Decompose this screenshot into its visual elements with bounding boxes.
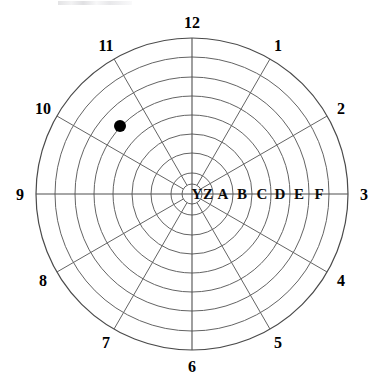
- inner-tick-10: [174, 184, 184, 190]
- polar-chart-stage: YZABCDEF 121234567891011: [0, 0, 378, 391]
- ring-label-Z: Z: [203, 186, 213, 202]
- hour-label-1: 1: [274, 37, 282, 54]
- hour-label-11: 11: [98, 37, 113, 54]
- ring-label-A: A: [218, 186, 229, 202]
- ring-label-Y: Y: [192, 186, 203, 202]
- hour-label-9: 9: [16, 186, 24, 203]
- ring-label-E: E: [294, 186, 304, 202]
- hour-label-2: 2: [337, 100, 345, 117]
- inner-tick-5: [197, 203, 203, 213]
- hour-label-5: 5: [274, 334, 282, 351]
- hour-label-8: 8: [39, 272, 47, 289]
- ring-label-D: D: [275, 186, 286, 202]
- data-point-group: [114, 120, 126, 132]
- ring-label-F: F: [314, 186, 323, 202]
- hour-label-3: 3: [360, 186, 368, 203]
- hour-label-7: 7: [102, 334, 110, 351]
- ring-label-B: B: [237, 186, 247, 202]
- hour-label-6: 6: [188, 358, 196, 375]
- hour-label-4: 4: [337, 272, 345, 289]
- ring-label-C: C: [257, 186, 268, 202]
- hour-label-12: 12: [184, 14, 200, 31]
- data-point-marker-0[interactable]: [114, 120, 126, 132]
- inner-tick-1: [197, 176, 203, 186]
- inner-tick-7: [182, 203, 188, 213]
- hour-label-10: 10: [35, 100, 51, 117]
- ring-label-group: YZABCDEF: [192, 186, 324, 202]
- polar-clock-diagram: YZABCDEF 121234567891011: [0, 0, 378, 391]
- inner-tick-11: [182, 176, 188, 186]
- inner-tick-8: [174, 199, 184, 205]
